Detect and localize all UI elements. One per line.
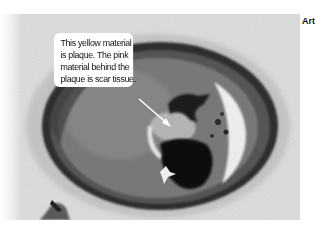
callout-line-4: plaque is scar tissue. (60, 73, 129, 85)
callout-line-3: material behind the (60, 61, 129, 73)
plaque-callout-box: This yellow material is plaque. The pink… (54, 33, 133, 87)
artery-micrograph (0, 14, 300, 220)
callout-line-1: This yellow material (60, 37, 129, 49)
callout-line-2: is plaque. The pink (60, 49, 129, 61)
side-heading-fragment: Art (302, 16, 315, 26)
artery-cross-section-image (0, 14, 300, 220)
